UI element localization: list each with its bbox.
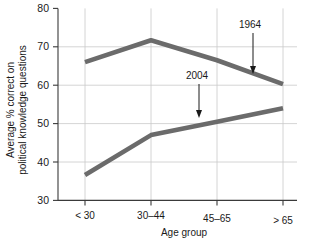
x-axis-title: Age group: [161, 227, 208, 238]
gridlines: [58, 47, 297, 162]
y-axis-title-line2: political knowledge questions: [17, 45, 28, 175]
annotation-2004: 2004: [186, 70, 209, 118]
x-tick-label-over65: > 65: [273, 215, 293, 226]
y-axis-title-line1: Average % correct on: [5, 62, 16, 158]
y-tick-label-60: 60: [37, 79, 49, 91]
y-tick-label-80: 80: [37, 2, 49, 14]
annotation-label-2004: 2004: [186, 70, 209, 81]
line-chart: 80 70 60 50 40 30 < 30 30–44 45–65 > 65 …: [0, 0, 315, 240]
y-tick-label-30: 30: [37, 194, 49, 206]
y-tick-label-70: 70: [37, 40, 49, 52]
x-tick-label-45-65: 45–65: [203, 213, 231, 224]
y-tick-marks: [53, 8, 58, 200]
x-tick-label-under30: < 30: [75, 210, 95, 221]
x-tick-label-30-44: 30–44: [137, 210, 165, 221]
y-tick-label-50: 50: [37, 117, 49, 129]
x-tick-marks: [85, 200, 283, 205]
chart-container: 80 70 60 50 40 30 < 30 30–44 45–65 > 65 …: [0, 0, 315, 240]
annotation-arrowhead-2004: [196, 110, 202, 118]
annotation-label-1964: 1964: [239, 19, 262, 30]
series-line-2004: [85, 108, 283, 175]
y-tick-label-40: 40: [37, 156, 49, 168]
